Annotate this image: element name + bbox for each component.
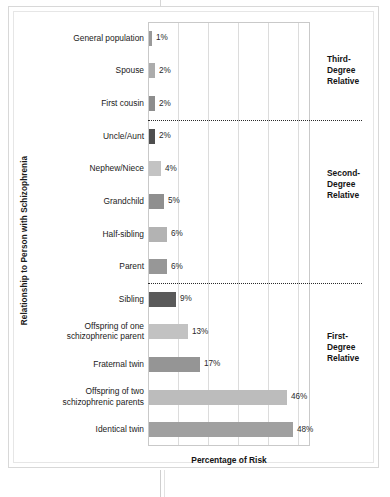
page-spine-line-secondary [164, 470, 165, 497]
degree-group-label: Second-DegreeRelative [327, 168, 387, 202]
category-label: Uncle/Aunt [0, 131, 144, 142]
bar-value-label: 9% [180, 294, 192, 303]
bar [149, 96, 155, 111]
bar-value-label: 17% [204, 359, 220, 368]
category-label: General population [0, 33, 144, 44]
bar-value-label: 2% [159, 131, 171, 140]
category-label: Offspring of twoschizophrenic parents [0, 386, 144, 407]
category-label: Half-sibling [0, 229, 144, 240]
group-separator [148, 283, 362, 284]
degree-group-label-line: Degree [327, 179, 387, 190]
bar [149, 129, 155, 144]
category-label: Nephew/Niece [0, 163, 144, 174]
group-separator [148, 120, 362, 121]
degree-group-label-line: Degree [327, 342, 387, 353]
page-spine-line [160, 470, 161, 497]
bar [149, 390, 287, 405]
bar [149, 259, 167, 274]
bar-value-label: 2% [159, 66, 171, 75]
category-label: Parent [0, 261, 144, 272]
category-label: Sibling [0, 294, 144, 305]
bar-value-label: 1% [156, 33, 168, 42]
bar [149, 31, 152, 46]
category-label: Fraternal twin [0, 359, 144, 370]
bar-value-label: 6% [171, 229, 183, 238]
bar [149, 194, 164, 209]
bar [149, 324, 188, 339]
bar-value-label: 6% [171, 262, 183, 271]
bar-value-label: 2% [159, 99, 171, 108]
schizophrenia-risk-bar-chart: Relationship to Person with Schizophreni… [0, 0, 390, 470]
degree-group-label: Third-DegreeRelative [327, 54, 387, 88]
bar [149, 292, 176, 307]
bar [149, 422, 293, 437]
degree-group-label-line: Third- [327, 54, 387, 65]
bar [149, 227, 167, 242]
degree-group-label-line: First- [327, 331, 387, 342]
category-label: Spouse [0, 65, 144, 76]
degree-group-label-line: Degree [327, 65, 387, 76]
bar-value-label: 5% [168, 196, 180, 205]
category-label: Offspring of oneschizophrenic parent [0, 321, 144, 342]
bar [149, 161, 161, 176]
gridline-50 [298, 23, 299, 445]
bar-value-label: 4% [165, 164, 177, 173]
bar-value-label: 48% [297, 425, 313, 434]
category-label: Identical twin [0, 424, 144, 435]
degree-group-label-line: Relative [327, 190, 387, 201]
degree-group-label: First-DegreeRelative [327, 331, 387, 365]
bar-value-label: 13% [192, 327, 208, 336]
degree-group-label-line: Relative [327, 76, 387, 87]
gridline-30 [238, 23, 239, 445]
gridline-20 [208, 23, 209, 445]
bar [149, 357, 200, 372]
x-axis-title: Percentage of Risk [148, 455, 310, 465]
category-label: Grandchild [0, 196, 144, 207]
gridline-40 [268, 23, 269, 445]
degree-group-label-line: Relative [327, 353, 387, 364]
degree-group-label-line: Second- [327, 168, 387, 179]
bar-value-label: 46% [291, 392, 307, 401]
category-label: First cousin [0, 98, 144, 109]
bar [149, 63, 155, 78]
